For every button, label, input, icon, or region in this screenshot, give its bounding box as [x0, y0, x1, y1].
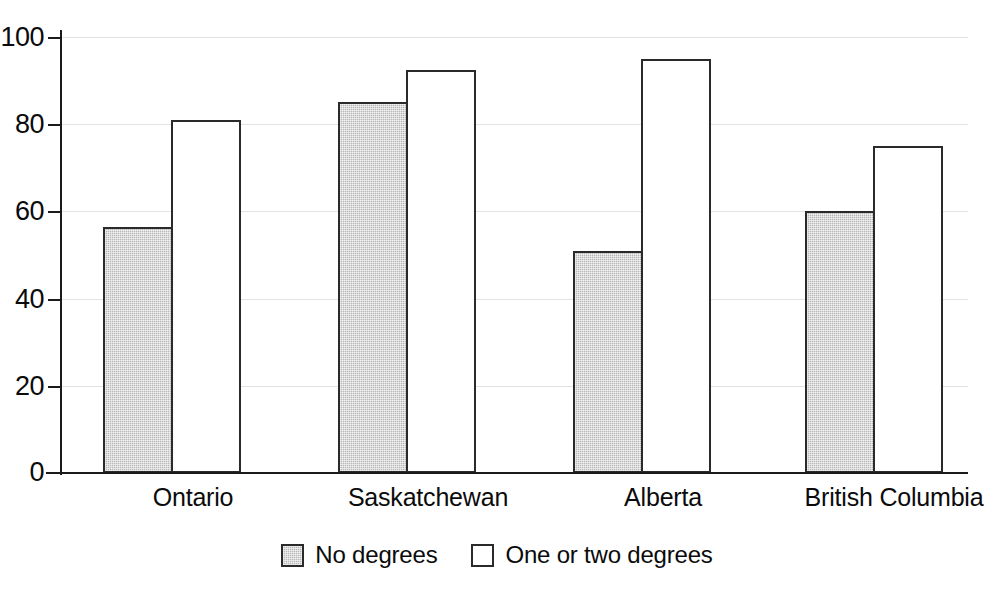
x-tick-label-alberta: Alberta: [563, 484, 763, 510]
bar-british-columbia-one-or-two-degrees: [873, 146, 943, 473]
bar-alberta-one-or-two-degrees: [641, 59, 711, 473]
y-tick-60: [48, 211, 61, 213]
y-tick-0: [48, 472, 61, 474]
legend-label-no-degrees: No degrees: [315, 543, 437, 567]
x-tick-label-british-columbia: British Columbia: [794, 484, 994, 510]
y-tick-label-20: 20: [15, 373, 44, 400]
bar-alberta-no-degrees: [573, 251, 643, 473]
legend-label-one-or-two-degrees: One or two degrees: [505, 543, 712, 567]
x-axis-line: [46, 472, 968, 474]
y-tick-label-80: 80: [15, 111, 44, 138]
y-tick-40: [48, 299, 61, 301]
bar-ontario-one-or-two-degrees: [171, 120, 241, 473]
bar-saskatchewan-one-or-two-degrees: [406, 70, 476, 473]
y-tick-label-60: 60: [15, 198, 44, 225]
x-tick-label-ontario: Ontario: [93, 484, 293, 510]
y-tick-100: [48, 37, 61, 39]
legend-item-one-or-two-degrees: One or two degrees: [471, 543, 712, 567]
bar-british-columbia-no-degrees: [805, 211, 875, 473]
hollow-swatch-icon: [471, 544, 494, 567]
y-axis-line: [60, 30, 62, 475]
legend-item-no-degrees: No degrees: [281, 543, 437, 567]
shaded-swatch-icon: [281, 544, 304, 567]
y-tick-label-100: 100: [0, 24, 44, 51]
x-tick-label-saskatchewan: Saskatchewan: [328, 484, 528, 510]
y-tick-20: [48, 386, 61, 388]
gridline-100: [60, 37, 968, 38]
y-tick-80: [48, 124, 61, 126]
chart-legend: No degrees One or two degrees: [0, 543, 994, 567]
plot-area: [60, 37, 968, 473]
y-tick-label-0: 0: [29, 459, 44, 486]
bar-saskatchewan-no-degrees: [338, 102, 408, 473]
bar-ontario-no-degrees: [103, 227, 173, 473]
bar-chart: 100 80 60 40 20 0 Ontario Saskatchewan A…: [0, 0, 994, 592]
y-tick-label-40: 40: [15, 286, 44, 313]
